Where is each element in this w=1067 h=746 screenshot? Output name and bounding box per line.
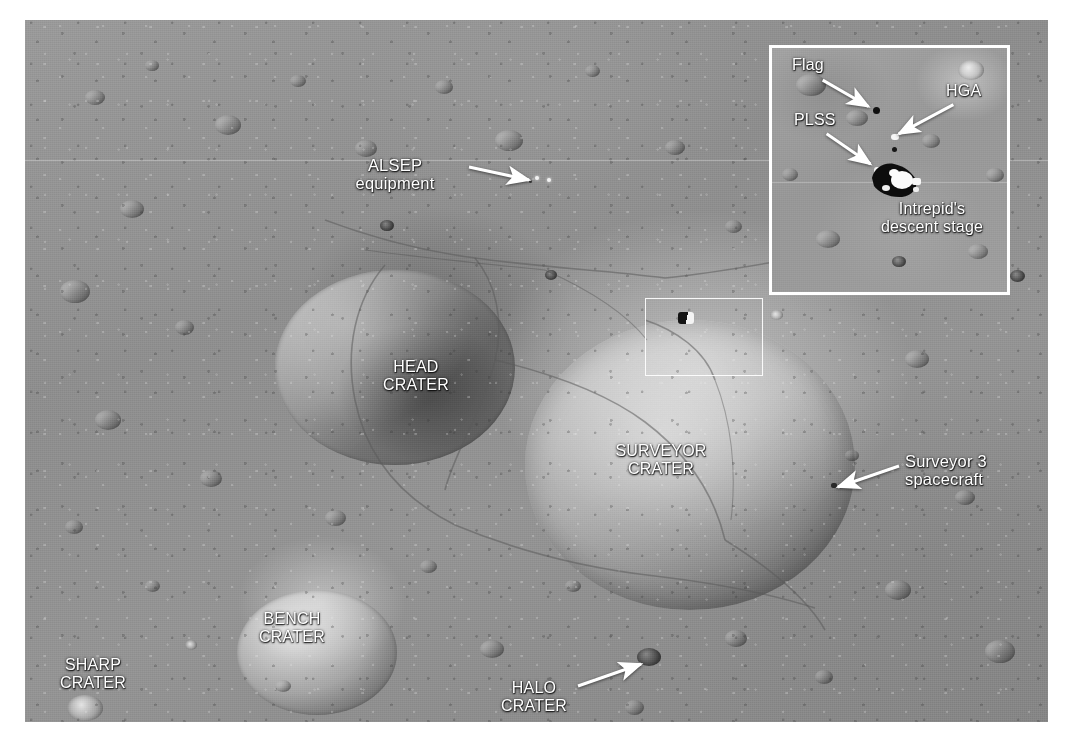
hga-marker xyxy=(891,134,899,140)
alsep-equipment-marker xyxy=(529,180,532,183)
alsep-equipment-marker xyxy=(535,176,539,180)
figure-canvas: ALSEP equipment HEAD CRATER SURVEYOR CRA… xyxy=(0,0,1067,746)
inset-source-region-box xyxy=(645,298,763,376)
surveyor-3-spacecraft-marker xyxy=(831,483,837,488)
intrepid-descent-stage xyxy=(868,160,930,200)
lunar-surface-photo: ALSEP equipment HEAD CRATER SURVEYOR CRA… xyxy=(25,20,1048,722)
alsep-equipment-marker xyxy=(547,178,551,182)
inset-closeup-panel: Flag HGA PLSS Intrepid's descent stage xyxy=(769,45,1010,295)
flag-marker xyxy=(873,107,880,114)
hga-shadow xyxy=(892,147,897,152)
